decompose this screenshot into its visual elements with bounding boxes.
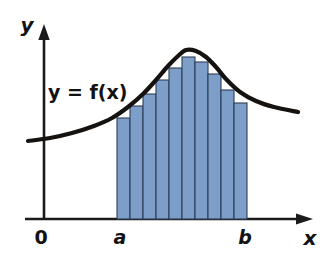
y-axis-arrowhead	[38, 24, 49, 40]
riemann-rectangle	[130, 106, 143, 219]
riemann-rectangle	[234, 103, 247, 219]
riemann-rectangle	[143, 94, 156, 219]
y-axis-label: y	[20, 13, 34, 37]
riemann-rectangle	[221, 90, 234, 219]
riemann-rectangle	[156, 80, 169, 219]
x-axis-arrowhead	[296, 213, 313, 224]
x-axis-label: x	[303, 226, 318, 250]
riemann-rectangle	[182, 57, 195, 219]
riemann-rectangle	[195, 62, 208, 219]
riemann-rectangle	[208, 74, 221, 219]
riemann-sum-figure: y x 0 a b y = f(x)	[0, 0, 336, 267]
lower-limit-label-a: a	[114, 226, 127, 248]
figure-canvas: y x 0 a b y = f(x)	[0, 0, 336, 267]
function-equation-label: y = f(x)	[48, 81, 127, 103]
riemann-rectangle	[169, 68, 182, 219]
riemann-rectangle	[117, 118, 130, 219]
upper-limit-label-b: b	[238, 226, 252, 248]
origin-label: 0	[34, 226, 47, 248]
